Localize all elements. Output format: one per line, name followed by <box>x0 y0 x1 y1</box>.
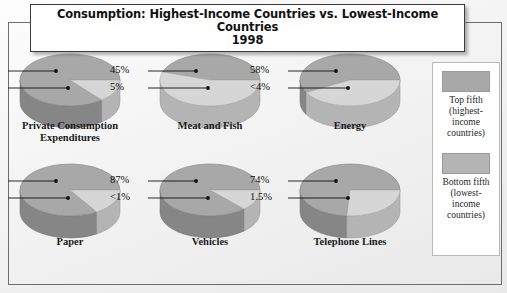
pie-chart: 84%1.1% <box>18 160 122 234</box>
pie-category-label: Private ConsumptionExpenditures <box>0 120 140 143</box>
pie-cell-paper: 84%1.1%Paper <box>0 156 140 266</box>
pie-category-label-line1: Vehicles <box>140 236 280 248</box>
pie-bottom-fifth-value: <1% <box>110 191 130 202</box>
pie-bottom-fifth-value: 1.5% <box>250 191 272 202</box>
pie-category-label-line1: Paper <box>0 236 140 248</box>
pie-top-fifth-value: 58% <box>250 64 269 75</box>
pie-category-label-line1: Telephone Lines <box>280 236 420 248</box>
pie-chart: 45%5% <box>158 50 262 124</box>
pie-cell-telephone-lines: 74%1.5%Telephone Lines <box>280 156 420 266</box>
chart-title-plate: Consumption: Highest-Income Countries vs… <box>30 4 465 52</box>
pie-category-label-line1: Energy <box>280 120 420 132</box>
pie-category-label: Paper <box>0 236 140 248</box>
pie-cell-vehicles: 87%<1%Vehicles <box>140 156 280 266</box>
pie-category-label-line2: Expenditures <box>0 132 140 144</box>
pie-chart: 86%1.3% <box>18 50 122 124</box>
pie-bottom-fifth-value: <4% <box>250 81 270 92</box>
pie-category-label: Meat and Fish <box>140 120 280 132</box>
chart-title-line1: Consumption: Highest-Income Countries vs… <box>35 8 460 34</box>
chart-figure: Consumption: Highest-Income Countries vs… <box>0 0 507 293</box>
legend-swatch-bottom-fifth <box>442 153 490 174</box>
pie-category-label-line1: Meat and Fish <box>140 120 280 132</box>
legend-top-line3: income <box>437 117 495 128</box>
pie-category-label: Vehicles <box>140 236 280 248</box>
pie-chart: 58%<4% <box>298 50 402 124</box>
pie-cell-meat-and-fish: 45%5%Meat and Fish <box>140 46 280 156</box>
chart-title-line2: 1998 <box>35 34 460 47</box>
pie-category-label: Telephone Lines <box>280 236 420 248</box>
pie-bottom-fifth-value: 5% <box>110 81 124 92</box>
legend-bottom-line1: Bottom fifth <box>437 177 495 188</box>
pie-category-label-line1: Private Consumption <box>0 120 140 132</box>
pie-top-fifth-value: 45% <box>110 64 129 75</box>
chart-legend: Top fifth (highest- income countries) Bo… <box>432 62 500 256</box>
pie-top-fifth-value: 74% <box>250 174 269 185</box>
legend-entry-top-fifth: Top fifth (highest- income countries) <box>437 71 495 139</box>
legend-top-line4: countries) <box>437 128 495 139</box>
pie-top-fifth-value: 87% <box>110 174 129 185</box>
legend-bottom-line3: income <box>437 199 495 210</box>
legend-top-line2: (highest- <box>437 106 495 117</box>
legend-swatch-top-fifth <box>442 71 490 92</box>
pie-row-top: 86%1.3%Private ConsumptionExpenditures 4… <box>0 46 420 156</box>
pie-row-bottom: 84%1.1%Paper 87%<1%Vehicles 74%1.5%Telep… <box>0 156 420 266</box>
pie-category-label: Energy <box>280 120 420 132</box>
legend-top-line1: Top fifth <box>437 95 495 106</box>
legend-entry-bottom-fifth: Bottom fifth (lowest- income countries) <box>437 153 495 221</box>
legend-bottom-line2: (lowest- <box>437 188 495 199</box>
pie-chart: 87%<1% <box>158 160 262 234</box>
pie-cell-private-consumption: 86%1.3%Private ConsumptionExpenditures <box>0 46 140 156</box>
pie-chart: 74%1.5% <box>298 160 402 234</box>
legend-bottom-line4: countries) <box>437 210 495 221</box>
pie-cell-energy: 58%<4%Energy <box>280 46 420 156</box>
